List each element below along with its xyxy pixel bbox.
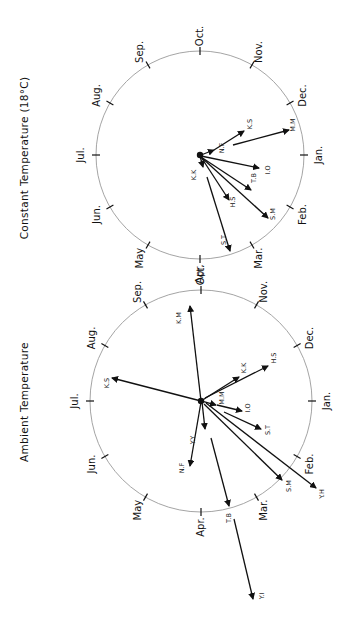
arrow-label: K.S [103,378,111,388]
arrow-label: I.O [264,165,272,174]
vector-arrow [206,403,316,488]
vector-arrow [217,405,242,411]
month-tick [294,455,301,459]
month-tick [287,101,294,105]
vector-arrow [202,402,205,429]
vector-arrow [201,157,251,190]
month-tick [294,344,301,348]
arrow-label: S.M [269,208,277,220]
arrow-label: I.O [244,403,252,412]
month-label: Jan. [313,146,324,166]
month-label: Dec. [304,327,315,350]
month-label: Jun. [91,205,102,225]
month-tick [101,344,108,348]
month-label: May [135,248,146,269]
vector-arrow [234,519,253,599]
month-label: Jun. [86,455,97,475]
vector-arrow [201,150,214,155]
circular-migration-diagram: Constant Temperature (18°C)Oct.Nov.Dec.J… [0,0,346,631]
month-label: Jul. [69,393,80,409]
vector-arrow [190,402,201,466]
panel-title: Ambient Temperature [18,342,30,462]
arrow-label: Y.I [258,593,266,601]
vector-arrow [190,306,201,401]
arrow-label: K.M [175,312,183,324]
vector-arrow [211,438,229,506]
arrow-label: S.M [285,480,293,492]
month-tick [144,494,148,501]
month-label: Apr. [195,517,206,537]
month-label: Mar. [254,247,265,268]
arrow-label: M.M [218,391,226,404]
panel-title: Constant Temperature (18°C) [18,77,30,240]
arrow-label: K.S [246,119,254,129]
month-label: Sep. [132,281,143,303]
vector-arrow [205,366,268,398]
month-label: Aug. [86,327,97,350]
arrow-label: S.T [220,235,228,245]
month-label: Mar. [258,500,269,521]
month-label: Feb. [304,454,315,475]
month-label: Jul. [75,147,86,163]
arrow-label: T.B [225,513,233,524]
arrow-label: K.K [240,362,248,373]
month-label: Feb. [297,204,308,225]
vector-arrow [112,378,201,401]
arrow-label: T.B [250,173,258,184]
arrow-label: K.K [190,169,198,180]
month-label: Jan. [321,392,332,412]
ambient-temperature-panel: Ambient TemperatureOct.Nov.Dec.Jan.Feb.M… [18,265,332,601]
month-tick [287,205,294,209]
month-label: Nov. [258,281,269,303]
arrow-label: S.T [264,425,272,435]
constant-temperature-panel: Constant Temperature (18°C)Oct.Nov.Dec.J… [18,26,324,284]
vector-arrow [214,131,244,150]
month-tick [106,205,113,209]
month-label: Oct. [194,26,205,46]
arrow-label: H.S [270,353,278,364]
month-label: Sep. [135,41,146,63]
month-label: May [132,500,143,521]
month-tick [106,101,113,105]
month-tick [144,301,148,308]
vector-arrow [201,157,268,218]
month-tick [101,455,108,459]
month-tick [146,61,150,68]
arrow-label: H.S [229,197,237,208]
month-label: Nov. [254,41,265,63]
vector-arrow [204,404,282,480]
month-label: Dec. [297,84,308,107]
month-label: Aug. [91,84,102,107]
arrow-label: Y.H [318,489,326,500]
arrow-label: M.M [289,118,297,131]
month-tick [146,242,150,249]
month-label: Oct. [195,265,206,285]
arrow-label: N.F [178,462,186,473]
